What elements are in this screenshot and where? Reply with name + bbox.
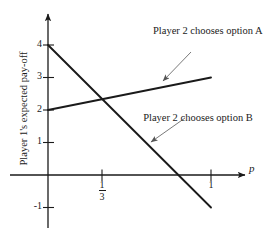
y-tick-label-3: 3 bbox=[26, 71, 42, 82]
y-tick-label-2: 2 bbox=[26, 104, 42, 115]
x-tick-label-one-third: 1 3 bbox=[95, 180, 109, 203]
y-tick-label-minus-1: -1 bbox=[22, 201, 42, 212]
fraction-one-third: 1 3 bbox=[99, 180, 106, 202]
fraction-denominator: 3 bbox=[99, 191, 106, 202]
y-tick-label-4: 4 bbox=[26, 39, 42, 50]
annotation-option-a: Player 2 chooses option A bbox=[153, 25, 257, 36]
series-line-option-a bbox=[48, 78, 211, 111]
fraction-numerator: 1 bbox=[99, 180, 106, 191]
y-tick-label-1: 1 bbox=[26, 136, 42, 147]
annotation-option-b: Player 2 chooses option B bbox=[140, 112, 256, 123]
x-tick-label-one: 1 bbox=[205, 180, 217, 191]
series-line-option-b bbox=[48, 45, 211, 208]
annotation-arrow-option-a bbox=[163, 52, 191, 81]
expected-payoff-chart: Player 1's expected pay-off 4 3 2 1 -1 1… bbox=[0, 0, 272, 239]
x-axis-name: p bbox=[249, 163, 255, 175]
